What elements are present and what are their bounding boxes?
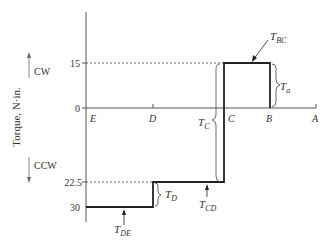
tick-label-15: 15 (70, 58, 80, 69)
label-TC: TC (198, 116, 210, 131)
svg-text:TD: TD (165, 188, 177, 203)
tick-label-30: 30 (70, 202, 80, 213)
point-B: B (266, 113, 272, 124)
torque-diagram: Torque, N·in. CW CCW 15 0 22.5 30 E D C … (0, 0, 328, 245)
label-TDE: TDE (114, 223, 131, 238)
cw-label: CW (34, 66, 51, 77)
label-TBC: TBC (270, 30, 287, 45)
brace-Ta (272, 64, 280, 107)
svg-text:TBC: TBC (270, 30, 287, 45)
ccw-label: CCW (34, 160, 57, 171)
tick-label-0: 0 (75, 103, 80, 114)
y-axis-label: Torque, N·in. (10, 87, 22, 147)
tick-label-22-5: 22.5 (65, 177, 83, 188)
svg-text:TCD: TCD (199, 198, 216, 213)
label-TD: TD (165, 188, 177, 203)
svg-text:TDE: TDE (114, 223, 131, 238)
label-Ta: Ta (280, 80, 290, 95)
point-D: D (148, 113, 157, 124)
arrowhead-TCD (205, 184, 209, 190)
point-E: E (89, 113, 96, 124)
arrowhead-TDE (122, 209, 126, 215)
brace-TD (155, 183, 161, 206)
point-A: A (311, 113, 319, 124)
cw-arrowhead (27, 52, 31, 58)
brace-TC (212, 64, 220, 182)
svg-text:TC: TC (198, 116, 210, 131)
point-C: C (228, 113, 235, 124)
svg-text:Ta: Ta (280, 80, 290, 95)
ccw-arrowhead (27, 177, 31, 183)
label-TCD: TCD (199, 198, 216, 213)
torque-curve (86, 63, 270, 207)
